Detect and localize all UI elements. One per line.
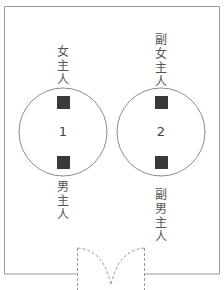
table-1-bottom-seat [57,156,70,169]
label-char: 人 [151,75,171,89]
label-char: 主 [53,194,73,208]
label-char: 女 [53,45,73,59]
vice-hostess-label: 副 女 主 人 [151,33,171,89]
label-char: 人 [151,230,171,244]
table-2-top-seat [155,96,168,109]
seating-diagram [0,0,224,290]
label-char: 人 [53,208,73,222]
table-1-top-seat [57,96,70,109]
host-label: 男 主 人 [53,180,73,222]
label-char: 主 [151,216,171,230]
vice-host-label: 副 男 主 人 [151,188,171,244]
label-char: 人 [53,73,73,87]
label-char: 副 [151,188,171,202]
label-char: 男 [53,180,73,194]
hostess-label: 女 主 人 [53,45,73,87]
label-char: 主 [53,59,73,73]
label-char: 副 [151,33,171,47]
door [78,248,145,290]
table-2-number: 2 [151,125,171,139]
table-2-bottom-seat [155,156,168,169]
table-1-number: 1 [53,125,73,139]
label-char: 男 [151,202,171,216]
label-char: 女 [151,47,171,61]
room-wall [5,7,220,275]
label-char: 主 [151,61,171,75]
